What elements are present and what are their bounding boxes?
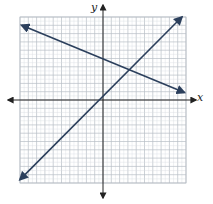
y-axis-label: y <box>91 1 97 14</box>
line-positive-slope <box>20 17 182 180</box>
x-axis-label: x <box>197 91 203 104</box>
coordinate-plane <box>0 0 213 204</box>
